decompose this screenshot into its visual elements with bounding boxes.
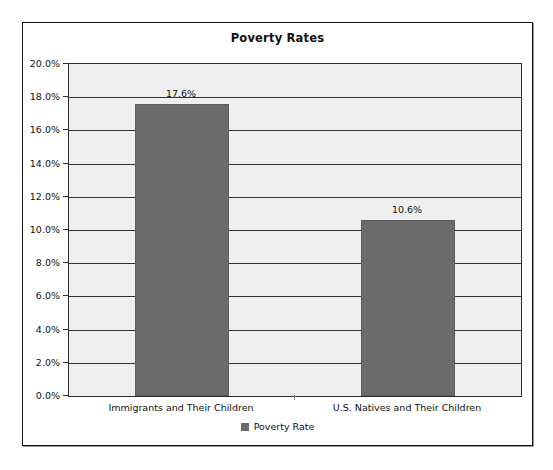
y-axis-tick-mark — [63, 129, 68, 130]
y-axis-tick-mark — [63, 96, 68, 97]
bar-data-label: 17.6% — [166, 88, 196, 99]
y-axis-tick-label: 14.0% — [30, 157, 60, 168]
y-axis-tick-label: 20.0% — [30, 58, 60, 69]
y-axis-tick-label: 10.0% — [30, 224, 60, 235]
x-axis-tick-mark — [294, 395, 295, 400]
y-axis-tick-mark — [63, 329, 68, 330]
y-axis-tick-label: 2.0% — [36, 356, 60, 367]
plot-inner — [69, 64, 521, 396]
x-axis-tick-label: Immigrants and Their Children — [108, 402, 253, 413]
y-axis-tick-label: 0.0% — [36, 390, 60, 401]
y-axis-tick-label: 12.0% — [30, 190, 60, 201]
chart-frame: Poverty Rates Poverty Rate 0.0%2.0%4.0%6… — [22, 22, 533, 446]
bar-data-label: 10.6% — [392, 204, 422, 215]
chart-legend: Poverty Rate — [23, 421, 532, 432]
plot-area — [68, 63, 522, 397]
chart-title: Poverty Rates — [23, 31, 532, 45]
y-axis-tick-mark — [63, 163, 68, 164]
y-axis-tick-label: 6.0% — [36, 290, 60, 301]
y-axis-tick-mark — [63, 262, 68, 263]
gridline — [69, 97, 521, 98]
y-axis-tick-mark — [63, 295, 68, 296]
y-axis-tick-label: 4.0% — [36, 323, 60, 334]
y-axis-tick-mark — [63, 395, 68, 396]
legend-label-poverty-rate: Poverty Rate — [254, 421, 315, 432]
y-axis-tick-label: 16.0% — [30, 124, 60, 135]
y-axis-tick-label: 8.0% — [36, 257, 60, 268]
y-axis-tick-label: 18.0% — [30, 91, 60, 102]
bar[interactable] — [361, 220, 455, 396]
x-axis-tick-label: U.S. Natives and Their Children — [333, 402, 481, 413]
y-axis-tick-mark — [63, 196, 68, 197]
legend-swatch-poverty-rate — [241, 423, 249, 431]
y-axis-tick-mark — [63, 362, 68, 363]
y-axis-tick-mark — [63, 229, 68, 230]
y-axis-tick-mark — [63, 63, 68, 64]
bar[interactable] — [135, 104, 229, 396]
